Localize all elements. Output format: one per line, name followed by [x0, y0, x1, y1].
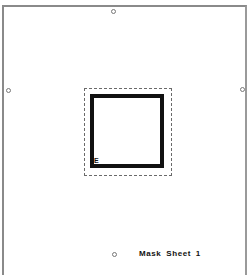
registration-mark-top: [111, 9, 116, 14]
registration-mark-left: [6, 88, 11, 93]
registration-mark-right: [240, 87, 245, 92]
sheet-title: Mask Sheet 1: [139, 249, 201, 258]
mask-square: [90, 94, 164, 168]
registration-mark-bottom: [112, 252, 117, 257]
corner-marker-label: E: [94, 157, 99, 164]
